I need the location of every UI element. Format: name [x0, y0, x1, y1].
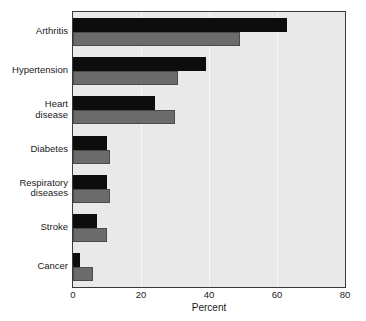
plot-area: Women Men [72, 11, 346, 288]
bar-women-1 [73, 57, 206, 71]
bar-women-3 [73, 136, 107, 150]
x-tick-0: 0 [70, 289, 75, 300]
category-axis-labels: ArthritisHypertensionHeart diseaseDiabet… [0, 11, 68, 288]
bar-women-4 [73, 175, 107, 189]
category-label-3: Diabetes [0, 143, 68, 154]
bar-chart: Women Men ArthritisHypertensionHeart dis… [0, 0, 366, 321]
gridline [141, 12, 142, 287]
bar-men-3 [73, 150, 110, 164]
bar-men-2 [73, 110, 175, 124]
category-label-4: Respiratory diseases [0, 177, 68, 198]
bar-men-4 [73, 189, 110, 203]
category-label-0: Arthritis [0, 25, 68, 36]
category-label-6: Cancer [0, 261, 68, 272]
bar-men-5 [73, 228, 107, 242]
x-tick-20: 20 [136, 289, 147, 300]
x-tick-40: 40 [204, 289, 215, 300]
bar-men-6 [73, 267, 93, 281]
category-label-2: Heart disease [0, 99, 68, 120]
x-tick-60: 60 [272, 289, 283, 300]
gridline [277, 12, 278, 287]
gridline [209, 12, 210, 287]
bar-men-0 [73, 32, 240, 46]
x-tick-80: 80 [340, 289, 351, 300]
x-axis-title: Percent [72, 302, 346, 313]
category-label-1: Hypertension [0, 65, 68, 76]
bar-women-0 [73, 18, 287, 32]
x-axis-tick-labels: 020406080 [72, 289, 346, 303]
bar-women-5 [73, 214, 97, 228]
bar-women-2 [73, 96, 155, 110]
bar-men-1 [73, 71, 178, 85]
category-label-5: Stroke [0, 222, 68, 233]
bar-women-6 [73, 253, 80, 267]
